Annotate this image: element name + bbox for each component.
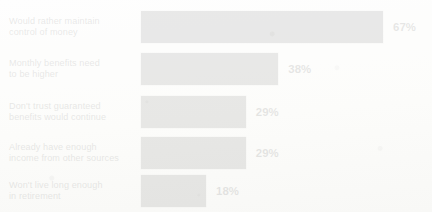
bar-row: Already have enough income from other so… bbox=[0, 137, 432, 169]
bar bbox=[141, 175, 206, 207]
bar bbox=[141, 96, 246, 128]
bar-row: Monthly benefits need to be higher38% bbox=[0, 53, 432, 85]
bar bbox=[141, 53, 278, 85]
bar-value-label: 18% bbox=[216, 185, 239, 197]
bar-category-label: Won't live long enough in retirement bbox=[9, 180, 137, 203]
bar-row: Don't trust guaranteed benefits would co… bbox=[0, 96, 432, 128]
bar bbox=[141, 137, 246, 169]
bar bbox=[141, 11, 383, 43]
bar-row: Would rather maintain control of money67… bbox=[0, 11, 432, 43]
bar-value-label: 29% bbox=[256, 106, 279, 118]
bar-category-label: Don't trust guaranteed benefits would co… bbox=[9, 101, 137, 124]
bar-value-label: 29% bbox=[256, 147, 279, 159]
bar-category-label: Would rather maintain control of money bbox=[9, 16, 137, 39]
bar-value-label: 38% bbox=[288, 63, 311, 75]
bar-value-label: 67% bbox=[393, 21, 416, 33]
horizontal-bar-chart: Would rather maintain control of money67… bbox=[0, 0, 432, 212]
bar-row: Won't live long enough in retirement18% bbox=[0, 175, 432, 207]
bar-category-label: Already have enough income from other so… bbox=[9, 142, 137, 165]
bar-category-label: Monthly benefits need to be higher bbox=[9, 58, 137, 81]
